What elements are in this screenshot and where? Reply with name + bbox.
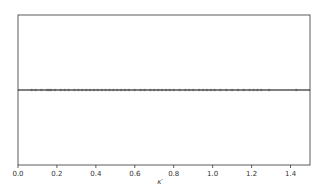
data-point <box>178 89 181 92</box>
data-point <box>165 89 168 92</box>
data-point <box>157 89 160 92</box>
chart: 0.00.20.40.60.81.01.21.4 κ′ <box>0 0 325 195</box>
data-point <box>252 89 255 92</box>
data-point <box>295 89 298 92</box>
data-point <box>89 89 92 92</box>
data-point <box>81 89 84 92</box>
data-point <box>260 89 263 92</box>
x-tick-label: 0.4 <box>90 170 102 178</box>
data-point <box>120 89 123 92</box>
data-point <box>248 89 251 92</box>
data-point <box>237 89 240 92</box>
data-point <box>73 89 76 92</box>
data-point <box>128 89 131 92</box>
data-point <box>50 89 53 92</box>
data-point <box>219 89 222 92</box>
data-point <box>188 89 191 92</box>
data-point <box>30 89 33 92</box>
data-point <box>139 89 142 92</box>
data-point <box>108 89 111 92</box>
data-point <box>54 89 57 92</box>
data-point <box>134 89 137 92</box>
data-point <box>124 89 127 92</box>
x-axis-ticks: 0.00.20.40.60.81.01.21.4 <box>12 165 296 178</box>
x-tick-label: 0.0 <box>12 170 23 178</box>
data-point <box>172 89 175 92</box>
x-tick-label: 0.6 <box>129 170 141 178</box>
data-point <box>100 89 103 92</box>
data-point <box>149 89 152 92</box>
x-tick-label: 1.4 <box>285 170 297 178</box>
data-point <box>67 89 70 92</box>
data-point <box>63 89 66 92</box>
data-point <box>161 89 164 92</box>
data-point <box>153 89 156 92</box>
data-point <box>231 89 234 92</box>
x-axis-label: κ′ <box>157 178 163 186</box>
data-point <box>40 89 43 92</box>
x-tick-label: 0.2 <box>51 170 62 178</box>
data-point <box>112 89 115 92</box>
data-point <box>77 89 80 92</box>
data-point <box>34 89 37 92</box>
data-point <box>104 89 107 92</box>
data-point <box>206 89 209 92</box>
data-point <box>213 89 216 92</box>
data-point <box>198 89 201 92</box>
data-point <box>256 89 259 92</box>
data-point <box>85 89 88 92</box>
data-point <box>169 89 172 92</box>
x-tick-label: 1.2 <box>246 170 257 178</box>
data-point <box>97 89 100 92</box>
data-point <box>143 89 146 92</box>
data-point <box>60 89 63 92</box>
data-point <box>202 89 205 92</box>
data-point <box>93 89 96 92</box>
data-point <box>192 89 195 92</box>
x-tick-label: 0.8 <box>168 170 179 178</box>
data-point <box>243 89 246 92</box>
data-point <box>225 89 228 92</box>
data-point <box>209 89 212 92</box>
x-tick-label: 1.0 <box>207 170 218 178</box>
data-point <box>116 89 119 92</box>
data-point <box>184 89 187 92</box>
data-point <box>268 89 271 92</box>
